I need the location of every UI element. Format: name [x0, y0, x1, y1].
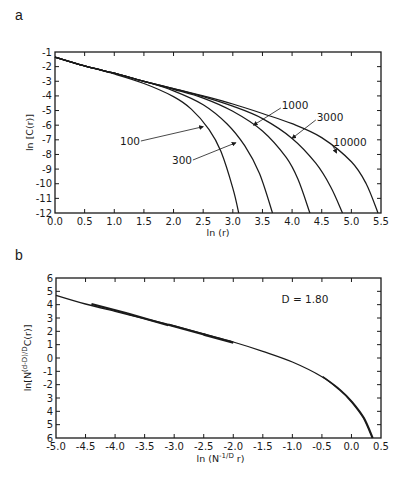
curve-N-3000	[55, 57, 343, 213]
y-tick-label: -8	[42, 149, 52, 160]
y-tick-label: -4	[42, 90, 52, 101]
y-tick-label: 2	[47, 326, 53, 337]
overlap-segment	[168, 325, 206, 336]
x-tick-label: 0.5	[373, 441, 389, 452]
x-tick-label: -2.0	[224, 441, 244, 452]
y-tick-label: 5	[47, 419, 53, 430]
x-tick-label: -4.5	[76, 441, 96, 452]
annotation-arrow	[292, 120, 316, 138]
y-tick-label: -10	[36, 178, 52, 189]
y-tick-label: -11	[36, 193, 52, 204]
curve-N-1000	[55, 57, 310, 213]
y-tick-label: 5	[47, 286, 53, 297]
y-tick-label: -9	[42, 164, 52, 175]
plot-frame	[56, 278, 381, 438]
x-tick-label: 4.5	[314, 216, 330, 227]
dimension-annotation: D = 1.80	[282, 293, 329, 305]
x-tick-label: 3.0	[225, 216, 241, 227]
x-tick-label: 5.0	[343, 216, 359, 227]
y-tick-label: -3	[42, 76, 52, 87]
x-tick-label: 1.5	[136, 216, 152, 227]
y-tick-label: -5	[42, 105, 52, 116]
annotation-arrow	[141, 127, 203, 141]
annotation-300: 300	[172, 154, 192, 166]
annotation-1000: 1000	[282, 99, 309, 111]
overlap-segment	[127, 313, 168, 325]
y-tick-label: 6	[47, 433, 53, 444]
x-axis-label: ln (N-1/D r)	[197, 452, 245, 464]
y-tick-label: -2	[43, 379, 53, 390]
curve-N-300	[55, 57, 273, 213]
y-tick-label: -7	[42, 134, 52, 145]
annotation-arrow	[193, 143, 236, 160]
plot-b: -5.0-4.5-4.0-3.5-3.0-2.5-2.0-1.5-1.0-0.5…	[21, 273, 389, 465]
curve-N-100	[55, 57, 239, 213]
annotation-10000: 10000	[333, 136, 366, 148]
x-tick-label: 2.0	[166, 216, 182, 227]
y-tick-label: -6	[42, 120, 52, 131]
collapsed-curve	[56, 295, 372, 438]
x-tick-label: 3.5	[255, 216, 271, 227]
plot-a: 0.00.51.01.52.02.53.03.54.04.55.05.5-1-2…	[24, 47, 389, 239]
y-axis-label: ln [C(r)]	[24, 114, 35, 151]
x-tick-label: 0.0	[344, 441, 360, 452]
y-axis-label: ln[N(d-D)/DC(r)]	[21, 325, 33, 392]
annotation-100: 100	[120, 135, 140, 147]
x-tick-label: -1.5	[253, 441, 273, 452]
collapsed-curve-tail	[323, 377, 373, 438]
figure-canvas: 0.00.51.01.52.02.53.03.54.04.55.05.5-1-2…	[0, 0, 405, 481]
x-axis-label: ln (r)	[207, 227, 230, 238]
y-tick-label: 6	[47, 273, 53, 284]
y-tick-label: -1	[42, 47, 52, 58]
x-tick-label: -1.0	[283, 441, 303, 452]
y-tick-label: -2	[42, 61, 52, 72]
x-tick-label: -4.0	[105, 441, 125, 452]
x-tick-label: -3.5	[135, 441, 155, 452]
y-tick-label: 0	[47, 353, 53, 364]
y-tick-label: 3	[47, 313, 53, 324]
y-tick-label: 3	[47, 393, 53, 404]
x-tick-label: 5.5	[373, 216, 389, 227]
x-tick-label: 1.0	[106, 216, 122, 227]
overlap-segment	[204, 335, 234, 343]
x-tick-label: -0.5	[312, 441, 332, 452]
curve-N-10000	[55, 57, 378, 213]
annotation-3000: 3000	[317, 111, 344, 123]
x-tick-label: 2.5	[195, 216, 211, 227]
y-tick-label: 4	[47, 406, 53, 417]
y-tick-label: -12	[36, 208, 52, 219]
y-tick-label: 1	[47, 339, 53, 350]
overlap-segment	[91, 304, 126, 313]
x-tick-label: 0.5	[77, 216, 93, 227]
y-tick-label: -1	[43, 366, 53, 377]
y-tick-label: 4	[47, 299, 53, 310]
x-tick-label: -2.5	[194, 441, 214, 452]
x-tick-label: 4.0	[284, 216, 300, 227]
x-tick-label: -3.0	[164, 441, 184, 452]
